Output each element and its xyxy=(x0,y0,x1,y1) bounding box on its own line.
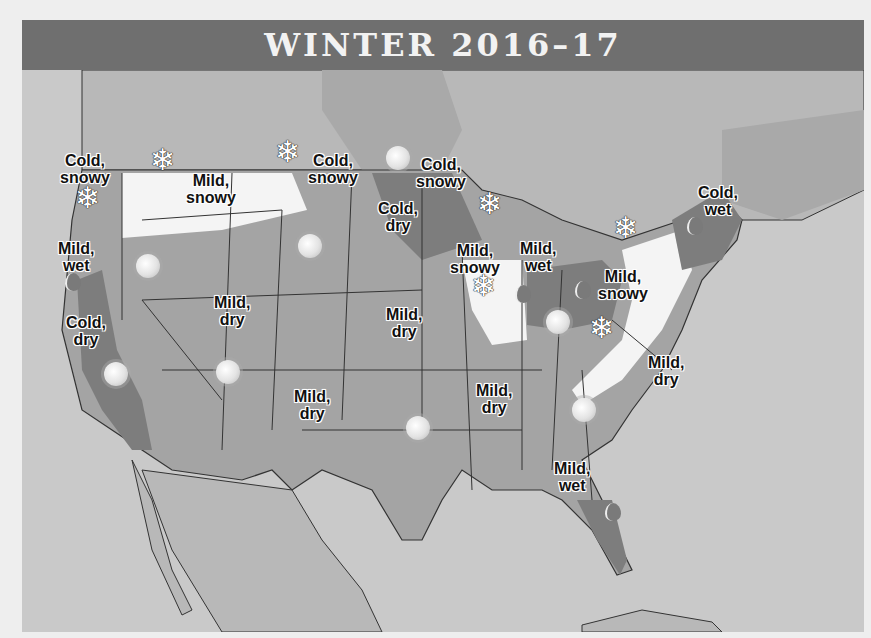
snowflake-icon: ❄ xyxy=(150,145,175,175)
region-label-intermountain: Mild,dry xyxy=(214,294,250,328)
snowflake-icon: ❄ xyxy=(589,313,614,343)
region-label-precip: wet xyxy=(554,477,590,494)
region-label-precip: dry xyxy=(294,405,330,422)
region-label-precip: dry xyxy=(648,371,684,388)
region-label-temp: Mild, xyxy=(598,268,648,285)
sun-icon xyxy=(546,310,570,334)
region-label-precip: snowy xyxy=(416,173,466,190)
region-label-pacific-nw-inland: Mild,wet xyxy=(58,240,94,274)
region-label-temp: Cold, xyxy=(308,152,358,169)
snowflake-icon: ❄ xyxy=(275,137,300,167)
region-label-precip: wet xyxy=(698,201,738,218)
region-label-precip: dry xyxy=(476,399,512,416)
map-title: WINTER 2016–17 xyxy=(264,26,622,64)
region-label-southwest: Mild,dry xyxy=(294,388,330,422)
raindrop-icon xyxy=(515,285,531,303)
region-label-lower-lakes: Mild,wet xyxy=(520,240,556,274)
region-label-upper-midwest: Cold,snowy xyxy=(416,156,466,190)
snowflake-icon: ❄ xyxy=(75,183,100,213)
region-label-florida: Mild,wet xyxy=(554,460,590,494)
region-label-precip: dry xyxy=(378,217,418,234)
region-label-precip: wet xyxy=(58,257,94,274)
region-label-temp: Mild, xyxy=(58,240,94,257)
region-label-precip: dry xyxy=(214,311,250,328)
region-label-temp: Mild, xyxy=(386,306,422,323)
region-label-north-central: Cold,dry xyxy=(378,200,418,234)
region-label-temp: Mild, xyxy=(554,460,590,477)
region-label-northern-rockies: Mild,snowy xyxy=(186,172,236,206)
region-label-atlantic-corridor: Mild,dry xyxy=(648,354,684,388)
region-label-precip: dry xyxy=(386,323,422,340)
region-label-temp: Mild, xyxy=(476,382,512,399)
raindrop-icon xyxy=(687,217,703,235)
region-label-deep-south: Mild,dry xyxy=(476,382,512,416)
snowflake-icon: ❄ xyxy=(477,189,502,219)
snowflake-icon: ❄ xyxy=(471,271,496,301)
region-label-california: Cold,dry xyxy=(66,314,106,348)
cuba xyxy=(582,610,722,632)
region-label-precip: dry xyxy=(66,331,106,348)
sun-icon xyxy=(104,362,128,386)
region-label-temp: Cold, xyxy=(60,152,110,169)
sun-icon xyxy=(298,234,322,258)
raindrop-icon xyxy=(575,281,591,299)
region-label-temp: Mild, xyxy=(214,294,250,311)
region-label-temp: Cold, xyxy=(66,314,106,331)
region-label-precip: snowy xyxy=(308,169,358,186)
title-bar: WINTER 2016–17 xyxy=(22,20,864,70)
region-label-temp: Mild, xyxy=(520,240,556,257)
region-label-temp: Mild, xyxy=(450,242,500,259)
region-label-precip: snowy xyxy=(186,189,236,206)
sun-icon xyxy=(406,416,430,440)
region-label-appalachians: Mild,snowy xyxy=(598,268,648,302)
weather-map xyxy=(22,70,864,632)
sun-icon xyxy=(572,398,596,422)
region-label-temp: Cold, xyxy=(416,156,466,173)
sun-icon xyxy=(386,146,410,170)
region-label-temp: Mild, xyxy=(186,172,236,189)
map-frame: WINTER 2016–17 xyxy=(22,20,864,632)
raindrop-icon xyxy=(605,503,621,521)
snowflake-icon: ❄ xyxy=(613,213,638,243)
raindrop-icon xyxy=(65,273,81,291)
region-label-temp: Cold, xyxy=(378,200,418,217)
region-label-precip: snowy xyxy=(598,285,648,302)
region-label-temp: Mild, xyxy=(648,354,684,371)
region-label-precip: wet xyxy=(520,257,556,274)
region-label-temp: Cold, xyxy=(698,184,738,201)
sun-icon xyxy=(136,254,160,278)
region-label-great-plains: Mild,dry xyxy=(386,306,422,340)
sun-icon xyxy=(216,360,240,384)
mexico-land xyxy=(142,470,382,632)
region-label-temp: Mild, xyxy=(294,388,330,405)
region-label-northern-plains: Cold,snowy xyxy=(308,152,358,186)
region-label-northeast: Cold,wet xyxy=(698,184,738,218)
